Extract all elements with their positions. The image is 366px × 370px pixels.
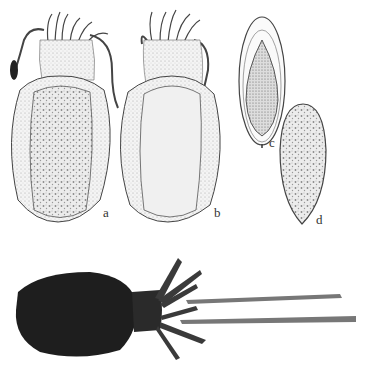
panel-b-cuttlefish-drawing (120, 10, 220, 222)
panel-a-cuttlefish-drawing (10, 12, 118, 222)
photo-cuttlefish-specimen (16, 258, 356, 360)
panel-label-b: b (214, 205, 221, 220)
panel-label-a: a (103, 205, 109, 220)
panel-label-d: d (316, 212, 323, 227)
panel-d-cuttlebone-dorsal (280, 104, 326, 224)
panel-c-cuttlebone-ventral (239, 17, 285, 148)
cuttlefish-figure: a b c d (0, 0, 366, 370)
panel-label-c: c (269, 135, 275, 150)
